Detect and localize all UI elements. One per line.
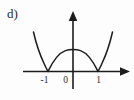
x-tick-label-zero: 0 <box>63 75 68 85</box>
x-tick-label-minus-one: -1 <box>41 75 49 85</box>
figure-panel: d) -1 0 1 <box>0 0 134 100</box>
curve-right-branch <box>98 32 113 71</box>
graph-plot: -1 0 1 <box>0 0 134 100</box>
x-tick-label-one: 1 <box>96 75 101 85</box>
y-axis-arrow-icon <box>69 11 78 21</box>
x-axis-arrow-icon <box>120 67 130 76</box>
curve-left-branch <box>34 32 49 71</box>
